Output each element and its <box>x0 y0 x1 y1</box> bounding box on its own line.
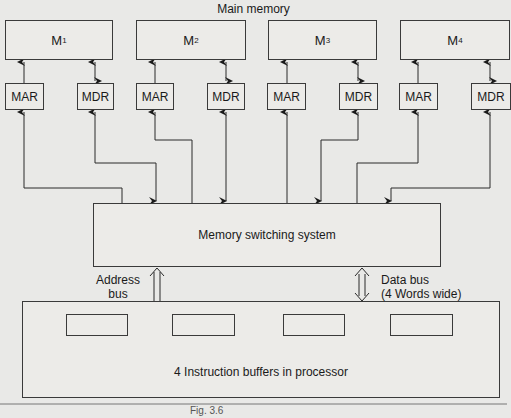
module-label: M <box>447 33 458 48</box>
data-bus-line2: (4 Words wide) <box>381 287 461 301</box>
data-bus-label: Data bus (4 Words wide) <box>381 273 461 301</box>
processor-label: 4 Instruction buffers in processor <box>174 365 348 379</box>
mar-4: MAR <box>399 83 438 110</box>
memory-module-2: M2 <box>136 20 246 60</box>
main-memory-title: Main memory <box>0 2 507 16</box>
memory-switching-system: Memory switching system <box>93 203 441 267</box>
figure-caption: Fig. 3.6 <box>190 404 223 418</box>
module-label: M <box>183 33 194 48</box>
mar-3: MAR <box>267 83 306 110</box>
module-label: M <box>315 33 326 48</box>
instruction-buffer-3 <box>283 314 345 336</box>
module-subscript: 1 <box>62 36 66 45</box>
mdr-3: MDR <box>339 83 378 110</box>
instruction-buffer-2 <box>172 314 235 336</box>
mdr-4: MDR <box>471 83 511 110</box>
mdr-2: MDR <box>207 83 245 110</box>
memory-module-1: M1 <box>5 20 113 60</box>
mar-2: MAR <box>136 83 174 110</box>
instruction-buffer-4 <box>390 314 453 336</box>
memory-module-4: M4 <box>400 20 510 60</box>
module-subscript: 4 <box>458 36 462 45</box>
address-bus-line1: Address <box>88 273 148 287</box>
mdr-1: MDR <box>77 83 114 110</box>
address-bus-label: Address bus <box>88 273 148 301</box>
data-bus-line1: Data bus <box>381 273 461 287</box>
address-bus-line2: bus <box>88 287 148 301</box>
mar-1: MAR <box>5 83 44 110</box>
module-subscript: 3 <box>326 36 330 45</box>
module-subscript: 2 <box>194 36 198 45</box>
instruction-buffer-1 <box>66 314 128 336</box>
module-label: M <box>51 33 62 48</box>
memory-module-3: M3 <box>268 20 377 60</box>
switch-label: Memory switching system <box>198 228 335 242</box>
